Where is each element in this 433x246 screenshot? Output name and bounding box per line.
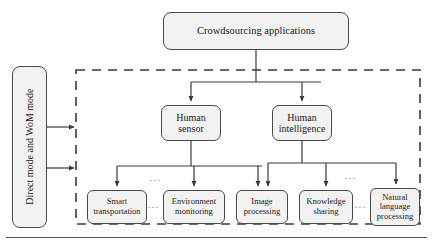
node-smart-transportation[interactable]: Smart transportation bbox=[87, 190, 147, 224]
node-label-line3: processing bbox=[377, 211, 413, 221]
node-crowdsourcing-applications[interactable]: Crowdsourcing applications bbox=[163, 12, 349, 50]
node-knowledge-sharing[interactable]: Knowledge sharing bbox=[299, 190, 353, 224]
ellipsis-above-left-group: ... bbox=[150, 173, 162, 183]
node-label: Image processing bbox=[244, 197, 280, 216]
node-label: Human intelligence bbox=[279, 112, 326, 134]
node-label-line1: Human bbox=[176, 112, 205, 123]
node-label-line2: intelligence bbox=[279, 123, 326, 134]
node-label: Environment monitoring bbox=[172, 197, 216, 216]
node-label-line1: Human bbox=[287, 112, 316, 123]
node-label: Knowledge sharing bbox=[306, 197, 345, 216]
figure-baseline-rule bbox=[6, 237, 427, 238]
node-label-line2: processing bbox=[244, 206, 280, 216]
ellipsis-between-smart-and-environment: ... bbox=[148, 200, 160, 210]
node-image-processing[interactable]: Image processing bbox=[236, 190, 288, 224]
node-label-line1: Smart bbox=[107, 196, 127, 206]
crowdsourcing-applications-diagram: Crowdsourcing applications Direct mode a… bbox=[0, 0, 433, 246]
node-label-line1: Knowledge bbox=[306, 196, 345, 206]
ellipsis-above-right-group: ... bbox=[345, 171, 357, 181]
node-label: Crowdsourcing applications bbox=[197, 25, 315, 37]
node-label-line2: transportation bbox=[93, 206, 140, 216]
node-label-line2: sensor bbox=[178, 123, 204, 134]
node-direct-and-wom-mode[interactable]: Direct mode and WoM mode bbox=[12, 66, 47, 228]
node-natural-language-processing[interactable]: Natural language processing bbox=[370, 188, 420, 226]
ellipsis-between-knowledge-and-natural: ... bbox=[355, 200, 367, 210]
node-label-line2: sharing bbox=[313, 206, 338, 216]
node-environment-monitoring[interactable]: Environment monitoring bbox=[163, 190, 225, 224]
node-human-intelligence[interactable]: Human intelligence bbox=[272, 105, 332, 141]
node-label: Human sensor bbox=[176, 112, 205, 134]
node-label-line1: Environment bbox=[172, 196, 216, 206]
node-label-line2: monitoring bbox=[175, 206, 213, 216]
node-label: Direct mode and WoM mode bbox=[24, 89, 35, 205]
node-label-line1: Image bbox=[251, 196, 272, 206]
node-label-line2: language bbox=[380, 201, 411, 211]
node-label: Smart transportation bbox=[93, 197, 140, 216]
node-label-line1: Natural bbox=[382, 192, 408, 202]
node-label: Natural language processing bbox=[377, 193, 413, 222]
node-human-sensor[interactable]: Human sensor bbox=[161, 105, 221, 141]
